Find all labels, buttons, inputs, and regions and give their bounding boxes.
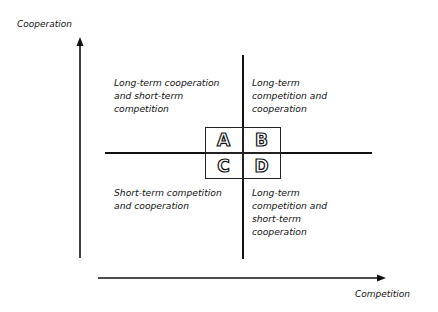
x-axis-arrowhead-icon (377, 275, 386, 282)
y-axis-label: Cooperation (17, 19, 72, 29)
quadrant-b-box: B (243, 127, 281, 153)
quadrant-c-box: C (205, 153, 243, 179)
y-axis-arrowhead-icon (77, 37, 84, 46)
quadrant-c-letter: C (217, 156, 230, 176)
quadrant-c-description: Short-term competition and cooperation (114, 186, 222, 212)
quadrant-a-box: A (205, 127, 243, 153)
quadrant-b-letter: B (255, 130, 269, 150)
quadrant-a-letter: A (217, 130, 231, 150)
quadrant-d-box: D (243, 153, 281, 179)
quadrant-b-description: Long-term competition and cooperation (252, 76, 327, 115)
quadrant-a-description: Long-term cooperation and short-term com… (114, 76, 219, 115)
x-axis-label: Competition (355, 289, 410, 299)
quadrant-d-letter: D (254, 156, 269, 176)
quadrant-d-description: Long-term competition and short-term coo… (252, 186, 327, 238)
